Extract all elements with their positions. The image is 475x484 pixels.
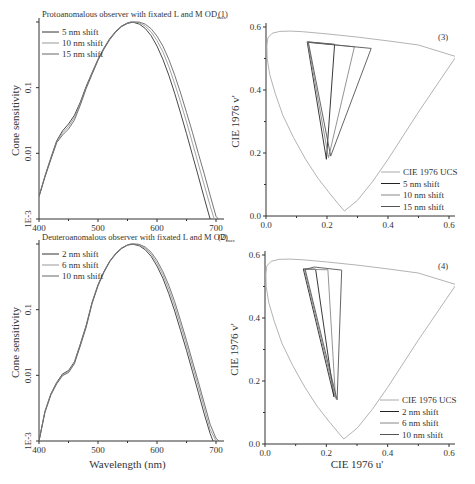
x-tick-label: 0.6 <box>443 448 455 458</box>
x-tick-label: 500 <box>91 445 105 455</box>
y-tick-label: 0.0 <box>250 211 262 221</box>
panel-label: (4) <box>438 261 448 271</box>
legend-label: 6 nm shift <box>402 418 439 428</box>
x-tick-label: 0.0 <box>260 220 272 230</box>
y-tick-label: 0.1 <box>23 304 33 315</box>
x-tick-label: 0.4 <box>382 448 394 458</box>
legend: 5 nm shift10 nm shift15 nm shift <box>42 27 104 59</box>
x-tick-label: 0.2 <box>321 448 332 458</box>
x-tick-label: 0.6 <box>443 220 455 230</box>
legend: CIE 1976 UCS5 nm shift10 nm shift15 nm s… <box>381 167 458 212</box>
y-axis-title: Cone sensitivity <box>9 306 21 378</box>
x-tick-label: 600 <box>150 445 164 455</box>
panel-title: Deuteroanomalous observer with fixated L… <box>42 232 235 243</box>
legend-label: 6 nm shift <box>62 260 99 270</box>
legend-label: 5 nm shift <box>62 27 99 37</box>
panel-spectral-protan: 4005006007001E-30.010.1Cone sensitivityP… <box>9 9 228 233</box>
y-tick-label: 0.0 <box>249 439 261 449</box>
legend-label: 2 nm shift <box>62 249 99 259</box>
y-axis-title: Cone sensitivity <box>9 84 21 156</box>
legend-label: CIE 1976 UCS <box>403 167 458 177</box>
x-axis-title: Wavelength (nm) <box>89 458 166 471</box>
x-tick-label: 400 <box>32 445 46 455</box>
panel-label: (2) <box>218 232 228 242</box>
y-tick-label: 0.2 <box>250 148 261 158</box>
y-tick-label: 0.6 <box>250 22 262 32</box>
series-10-nm-shift <box>308 42 355 158</box>
x-tick-label: 0.4 <box>382 220 394 230</box>
y-tick-label: 0.4 <box>249 313 261 323</box>
legend-label: 15 nm shift <box>62 49 104 59</box>
y-tick-label: 0.4 <box>250 85 262 95</box>
x-tick-label: 0.0 <box>259 448 271 458</box>
x-tick-label: 700 <box>209 445 223 455</box>
panel-spectral-deutan: 4005006007001E-30.010.1Cone sensitivityW… <box>9 232 235 471</box>
y-tick-label: 0.1 <box>23 82 33 93</box>
series-6-nm-shift <box>304 269 335 398</box>
y-tick-label: 0.01 <box>23 145 33 161</box>
axes: 4005006007001E-30.010.1Cone sensitivityW… <box>9 240 224 471</box>
panel-label: (1) <box>218 9 228 19</box>
legend-label: 10 nm shift <box>402 430 444 440</box>
panel-label: (3) <box>438 32 448 42</box>
y-tick-label: 1E-3 <box>23 432 33 450</box>
x-tick-label: 0.2 <box>321 220 332 230</box>
panel-chromaticity-deutan: 0.00.20.40.60.00.20.40.6CIE 1976 v'CIE 1… <box>228 250 457 470</box>
series-10-nm-shift <box>305 267 342 400</box>
legend-label: 10 nm shift <box>62 271 104 281</box>
legend: CIE 1976 UCS2 nm shift6 nm shift10 nm sh… <box>380 395 457 440</box>
panel-title: Protoanomalous observer with fixated L a… <box>42 9 226 20</box>
axes: 4005006007001E-30.010.1Cone sensitivity <box>9 18 224 233</box>
x-axis-title: CIE 1976 u' <box>331 458 384 470</box>
panel-chromaticity-protan: 0.00.20.40.60.00.20.40.6CIE 1976 v'(3)CI… <box>229 22 458 230</box>
legend-label: 10 nm shift <box>62 38 104 48</box>
legend: 2 nm shift6 nm shift10 nm shift <box>42 249 104 281</box>
legend-label: 2 nm shift <box>402 407 439 417</box>
y-tick-label: 1E-3 <box>23 210 33 228</box>
y-tick-label: 0.6 <box>249 250 261 260</box>
legend-label: 10 nm shift <box>403 190 445 200</box>
y-tick-label: 0.2 <box>249 376 260 386</box>
y-tick-label: 0.01 <box>23 367 33 383</box>
y-axis-title: CIE 1976 v' <box>229 95 241 148</box>
legend-label: 5 nm shift <box>403 179 440 189</box>
legend-label: 15 nm shift <box>403 202 445 212</box>
y-axis-title: CIE 1976 v' <box>228 323 240 376</box>
legend-label: CIE 1976 UCS <box>402 395 457 405</box>
figure: 4005006007001E-30.010.1Cone sensitivityP… <box>0 0 475 484</box>
